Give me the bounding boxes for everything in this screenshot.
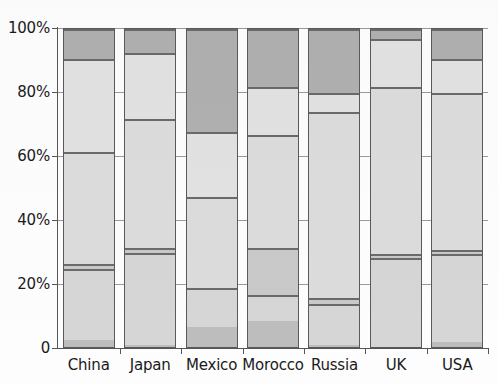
x-tick-mark [488,348,489,354]
bar-segment [64,340,114,348]
segment-divider [371,87,421,89]
segment-divider [248,135,298,137]
bar-segment [187,288,237,327]
y-tick-mark [52,92,58,93]
x-tick-label-usa: USA [442,356,472,374]
bar-segment [125,29,175,53]
x-tick-label-china: China [68,356,110,374]
y-tick-label: 20% [17,275,50,293]
y-tick-mark [52,156,58,157]
segment-divider [125,53,175,55]
bar-segment [64,269,114,340]
bar-segment [309,112,359,298]
segment-divider [248,29,298,31]
bar-russia [308,28,360,348]
bar-segment [125,119,175,249]
segment-divider [64,59,114,61]
segment-divider [64,152,114,154]
x-tick-mark [243,348,244,354]
bar-china [63,28,115,348]
x-tick-label-mexico: Mexico [186,356,237,374]
segment-divider [187,29,237,31]
bar-segment [187,327,237,348]
bar-segment [309,345,359,348]
x-tick-mark [181,348,182,354]
segment-divider [187,132,237,134]
segment-divider [309,304,359,306]
bar-usa [431,28,483,348]
bar-segment [432,342,482,348]
x-tick-mark [365,348,366,354]
bar-segment [125,253,175,345]
stacked-bar-chart: 100%80%60%40%20%0 ChinaJapanMexicoMorocc… [0,0,498,383]
bar-segment [432,29,482,59]
x-tick-label-russia: Russia [311,356,358,374]
bar-japan [124,28,176,348]
y-tick-label: 100% [8,19,50,37]
segment-divider [187,288,237,290]
bar-mexico [186,28,238,348]
x-tick-label-uk: UK [386,356,406,374]
segment-divider [125,248,175,250]
y-tick-mark [52,220,58,221]
plot-area: 100%80%60%40%20%0 [58,28,488,348]
bar-segment [248,248,298,294]
segment-divider [64,264,114,266]
segment-divider [432,250,482,252]
bar-segment [248,87,298,135]
segment-divider [125,253,175,255]
bar-segment [187,197,237,287]
bar-segment [432,93,482,250]
bar-segment [64,59,114,152]
segment-divider [64,269,114,271]
segment-divider [309,29,359,31]
segment-divider [187,197,237,199]
bar-segment [248,135,298,249]
segment-divider [248,248,298,250]
segment-divider [371,258,421,260]
segment-divider [432,59,482,61]
segment-divider [309,112,359,114]
segment-divider [371,29,421,31]
segment-divider [309,298,359,300]
bar-segment [64,152,114,264]
bar-segment [187,132,237,198]
bar-segment [187,29,237,132]
segment-divider [125,29,175,31]
bar-segment [309,29,359,93]
x-axis-line [57,348,489,349]
y-tick-label: 0 [41,339,50,357]
bar-segment [432,59,482,93]
bar-segment [125,345,175,348]
segment-divider [371,39,421,41]
segment-divider [432,254,482,256]
segment-divider [309,93,359,95]
x-tick-label-japan: Japan [130,356,171,374]
x-tick-label-morocco: Morocco [242,356,303,374]
segment-divider [432,29,482,31]
bar-segment [248,29,298,87]
y-tick-label: 80% [17,83,50,101]
x-tick-mark [120,348,121,354]
y-tick-label: 60% [17,147,50,165]
segment-divider [248,87,298,89]
bar-segment [248,295,298,322]
bar-segment [309,93,359,112]
bar-segment [371,258,421,347]
x-tick-mark [427,348,428,354]
bar-segment [371,39,421,87]
y-tick-mark [52,284,58,285]
y-tick-mark [52,348,58,349]
segment-divider [125,119,175,121]
bar-segment [371,87,421,254]
y-tick-mark [52,28,58,29]
x-tick-mark [304,348,305,354]
segment-divider [432,93,482,95]
segment-divider [64,29,114,31]
bar-segment [432,254,482,342]
bar-segment [64,29,114,59]
bar-morocco [247,28,299,348]
bar-segment [309,304,359,345]
bar-segment [125,53,175,119]
segment-divider [248,295,298,297]
